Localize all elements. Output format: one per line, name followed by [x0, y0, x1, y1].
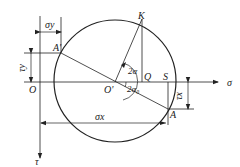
diameter-line [61, 53, 168, 109]
diagram-svg: σ τ O O' A' A K Q S 2α 2α₀ σx σy τy τx [0, 0, 240, 167]
point-q-label: Q [144, 71, 152, 82]
tau-x-label: τx [173, 91, 184, 100]
point-a-prime-label: A' [52, 42, 62, 53]
sigma-x-arrow-head [160, 121, 166, 125]
origin-label: O [29, 84, 36, 95]
point-a-label: A [169, 109, 177, 120]
angle-2alpha-label: 2α [128, 66, 138, 76]
angle-2alpha0-label: 2α₀ [127, 84, 139, 94]
center-label: O' [104, 84, 114, 95]
sigma-axis-label: σ [227, 77, 233, 88]
tau-axis-label: τ [35, 156, 39, 167]
point-s-label: S [163, 71, 168, 82]
sigma-x-label: σx [95, 111, 105, 122]
angle-2alpha0-arc [125, 82, 126, 87]
mohr-circle-diagram: σ τ O O' A' A K Q S 2α 2α₀ σx σy τy τx [0, 0, 240, 167]
point-k-label: K [137, 10, 146, 21]
tau-y-label: τy [16, 63, 27, 72]
sigma-y-label: σy [45, 19, 55, 30]
